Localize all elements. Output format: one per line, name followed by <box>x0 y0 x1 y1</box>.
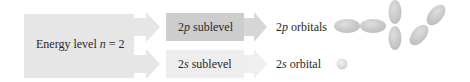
p-orbitals-suffix: orbitals <box>288 20 327 34</box>
arrow-to-2s-orbital-icon <box>244 49 267 79</box>
energy-level-label: Energy level n = 2 <box>36 37 125 51</box>
p-orbitals-label: 2p orbitals <box>276 20 327 34</box>
sublevel-2p-suffix: sublevel <box>190 20 233 34</box>
sublevel-2s-label: 2s sublevel <box>178 57 232 71</box>
arrow-to-2s-icon <box>134 49 160 79</box>
energy-level-suffix: = 2 <box>106 37 125 51</box>
s-orbital-suffix: orbital <box>287 57 321 71</box>
sublevel-2p-label: 2p sublevel <box>178 20 233 34</box>
p-orbitals-icon <box>334 0 449 50</box>
s-orbital-label: 2s orbital <box>276 57 321 71</box>
sublevel-2s-suffix: sublevel <box>189 57 232 71</box>
energy-level-prefix: Energy level <box>36 37 100 51</box>
arrow-to-2p-orbitals-icon <box>244 12 267 42</box>
arrow-to-2p-icon <box>134 12 160 42</box>
s-orbital-icon <box>337 59 348 70</box>
